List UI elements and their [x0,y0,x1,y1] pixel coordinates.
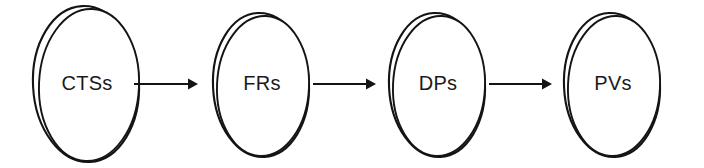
node-label-pvs: PVs [594,72,631,94]
node-label-ctss: CTSs [62,72,113,94]
diagram-edge-ctss-to-frs [134,79,198,90]
arrow-head-icon [366,79,376,90]
diagram-node-pvs[interactable]: PVs [561,11,663,159]
diagram-edge-dps-to-pvs [489,79,552,90]
diagram-node-frs[interactable]: FRs [210,11,312,159]
diagram-canvas: CTSs FRs DPs [0,0,704,168]
diagram-node-ctss[interactable]: CTSs [29,3,143,164]
arrow-head-icon [542,79,552,90]
arrow-head-icon [188,79,198,90]
node-label-dps: DPs [419,72,457,94]
diagram-edge-frs-to-dps [313,79,376,90]
flow-diagram: CTSs FRs DPs [0,0,704,168]
diagram-node-dps[interactable]: DPs [386,11,488,159]
node-label-frs: FRs [243,72,280,94]
